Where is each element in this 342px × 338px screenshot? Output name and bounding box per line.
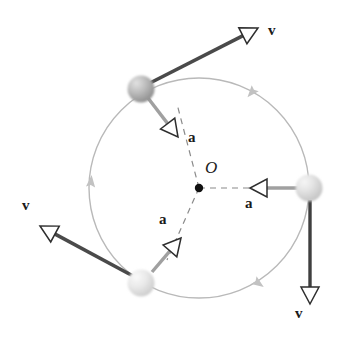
velocity-bottom-right: [301, 200, 319, 304]
acceleration-upper-left: [148, 98, 185, 142]
arc-direction-lower-right: [251, 276, 266, 290]
circle-center-dot: [195, 184, 203, 192]
velocity-label-bottom-right: v: [295, 306, 303, 321]
circle-center-label: O: [205, 159, 217, 176]
velocity-label-lower-left: v: [22, 198, 30, 213]
acceleration-lower-left: [152, 232, 188, 272]
acceleration-upper-left-shaft: [148, 98, 168, 125]
particle-lower-left: [128, 270, 155, 297]
radius-line-upper-left: [177, 104, 199, 188]
acceleration-right: [250, 179, 298, 197]
circular-motion-figure: O v v v a a a: [0, 0, 342, 338]
figure-canvas: [0, 0, 342, 338]
acceleration-label-lower-left: a: [159, 212, 167, 227]
particle-right: [296, 175, 323, 202]
arc-direction-markers: [86, 85, 266, 291]
velocity-lower-left: [36, 218, 133, 276]
velocity-label-upper-right: v: [268, 23, 276, 38]
velocity-lower-left-arrowhead: [36, 218, 59, 242]
velocity-vectors-group: [36, 20, 319, 304]
acceleration-lower-left-shaft: [152, 250, 171, 272]
arc-direction-left: [86, 175, 96, 188]
acceleration-label-upper-left: a: [188, 130, 196, 145]
velocity-lower-left-shaft: [54, 233, 133, 276]
velocity-bottom-right-arrowhead: [301, 287, 319, 304]
arc-direction-upper-right: [244, 85, 259, 100]
velocity-upper-right: [150, 20, 262, 83]
velocity-upper-right-arrowhead: [239, 20, 262, 44]
acceleration-vectors-group: [148, 98, 298, 272]
velocity-upper-right-shaft: [150, 35, 244, 83]
acceleration-label-right: a: [245, 196, 253, 211]
particle-upper-left: [128, 76, 155, 103]
